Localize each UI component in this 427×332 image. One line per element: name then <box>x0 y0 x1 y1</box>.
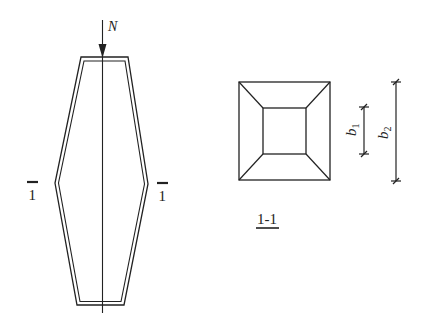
dimension-b2-label: b2 <box>375 127 393 140</box>
dimension-b2: b2 <box>375 79 401 184</box>
section-mark-left-label: 1 <box>29 187 37 203</box>
cross-section: 1-1 <box>239 82 330 228</box>
column-elevation: N <box>55 19 148 313</box>
section-diagonal-tl <box>239 82 263 108</box>
section-inner-square <box>263 108 306 154</box>
load-label: N <box>107 19 118 34</box>
section-diagonal-br <box>306 154 330 180</box>
section-diagonal-bl <box>239 154 263 180</box>
section-title: 1-1 <box>257 211 277 227</box>
section-mark-left: 1 <box>27 182 38 203</box>
dimension-b1: b1 <box>343 104 369 157</box>
column-diagram: N 1 1 1-1 b1 b <box>0 0 427 332</box>
load-arrow-head-icon <box>99 44 107 58</box>
dimension-b1-label: b1 <box>343 124 361 137</box>
section-mark-right: 1 <box>157 183 168 204</box>
section-mark-right-label: 1 <box>159 188 167 204</box>
column-outer-outline <box>55 57 148 305</box>
section-diagonal-tr <box>306 82 330 108</box>
